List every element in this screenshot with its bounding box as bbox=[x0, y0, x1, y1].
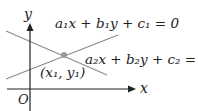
x-axis-arrow-icon bbox=[128, 86, 136, 93]
line-2-equation: a₂x + b₂y + c₂ = 0 bbox=[85, 53, 198, 67]
diagram-canvas: y x O a₁x + b₁y + c₁ = 0 a₂x + b₂y + c₂ … bbox=[0, 0, 198, 111]
line-1-equation: a₁x + b₁y + c₁ = 0 bbox=[55, 17, 179, 31]
intersection-point bbox=[61, 52, 67, 58]
x-axis-label: x bbox=[140, 81, 148, 95]
y-axis-label: y bbox=[24, 7, 32, 21]
origin-label: O bbox=[18, 93, 29, 106]
intersection-label: (x₁, y₁) bbox=[40, 66, 85, 80]
y-axis-arrow-icon bbox=[27, 23, 34, 31]
